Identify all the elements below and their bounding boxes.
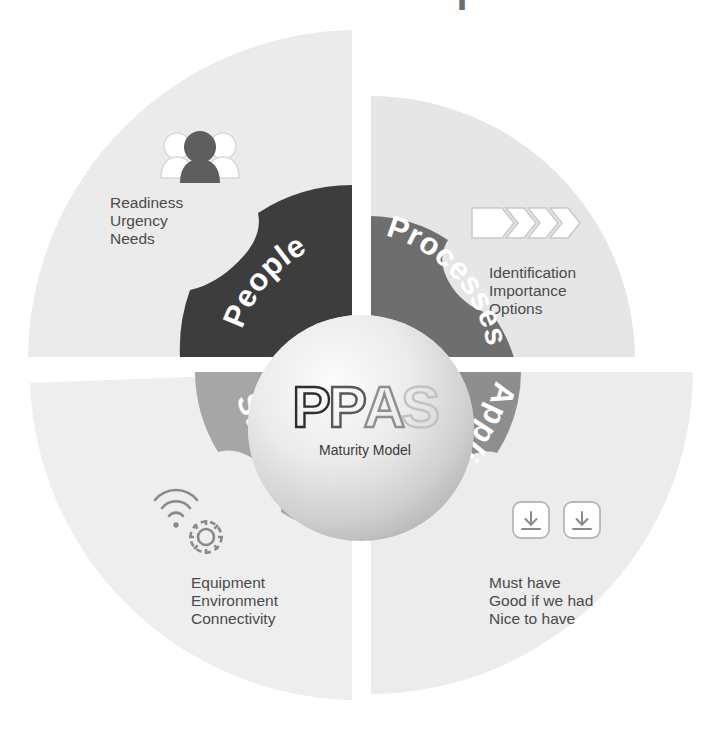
processes-bullet-0: Identification [489,264,576,281]
quadrant-separators: P P A S Maturity Model [20,20,702,710]
processes-bullet-1: Importance [489,282,567,299]
ppas-letter-top-2: A [364,374,405,439]
process-chevrons-icon [472,208,580,238]
structure-bullet-2: Connectivity [191,610,276,627]
page-title-partial: l [456,0,467,18]
diagram-canvas: l Readiness Urgency Needs Pe [0,0,721,730]
people-bullet-2: Needs [110,230,155,247]
ppas-letter-top-0: P [292,374,330,439]
ppas-letter-top-3: S [401,374,439,439]
people-group-icon [161,131,239,183]
application-bullet-1: Good if we had [489,592,593,609]
quadrant-processes[interactable]: Identification Importance Options Proces… [370,96,635,361]
application-bullet-0: Must have [489,574,561,591]
structure-bullet-0: Equipment [191,574,266,591]
center-subtitle-top: Maturity Model [319,442,411,458]
people-bullet-1: Urgency [110,212,168,229]
application-bullet-2: Nice to have [489,610,575,627]
quadrant-people[interactable]: Readiness Urgency Needs People [28,30,355,357]
ppas-acronym-top: P P A S [292,374,439,439]
structure-bullet-1: Environment [191,592,279,609]
people-bullet-0: Readiness [110,194,183,211]
ppas-letter-top-1: P [328,374,366,439]
ppas-maturity-model-diagram: l Readiness Urgency Needs Pe [0,0,721,730]
